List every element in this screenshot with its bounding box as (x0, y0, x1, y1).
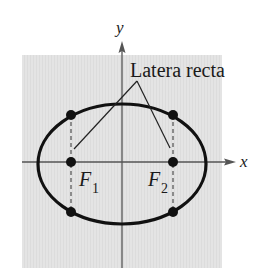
latera-recta-label: Latera recta (130, 59, 225, 81)
y-axis-label: y (114, 18, 124, 37)
focus-2-subscript: 2 (161, 181, 168, 196)
focus-1-point (66, 157, 76, 167)
latus-rectum-2-top-point (168, 110, 178, 120)
focus-2-label: F (147, 168, 161, 190)
latus-rectum-1-top-point (66, 110, 76, 120)
latus-rectum-1-bottom-point (66, 207, 76, 217)
latus-rectum-2-bottom-point (168, 207, 178, 217)
focus-1-subscript: 1 (92, 181, 99, 196)
ellipse-latera-recta-diagram: x y Latera recta F 1 F 2 (0, 0, 259, 275)
focus-2-point (168, 157, 178, 167)
focus-1-label: F (78, 168, 92, 190)
x-axis-label: x (239, 152, 248, 171)
